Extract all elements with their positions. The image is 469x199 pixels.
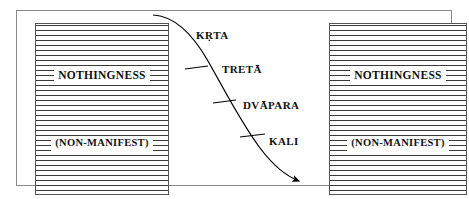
yuga-label-dvapara: DVĀPARA [243,100,299,111]
yuga-curve-svg [152,11,312,185]
yuga-label-krta: KṚTA [196,30,229,41]
right-nothingness-region: NOTHINGNESS (NON-MANIFEST) [329,23,467,195]
yuga-curve-plot [152,11,312,185]
left-non-manifest-label: (NON-MANIFEST) [36,136,168,152]
right-non-manifest-label: (NON-MANIFEST) [330,136,466,152]
left-nothingness-region: NOTHINGNESS (NON-MANIFEST) [35,23,169,195]
left-nothingness-label: NOTHINGNESS [36,68,168,85]
yuga-cycle-diagram: NOTHINGNESS (NON-MANIFEST) NOTHINGNESS (… [0,0,469,199]
tick-mark-treta [213,100,236,103]
tick-mark-krta [185,66,208,69]
yuga-label-treta: TRETĀ [222,64,262,75]
right-nothingness-label: NOTHINGNESS [330,68,466,85]
yuga-label-kali: KALI [269,136,299,147]
